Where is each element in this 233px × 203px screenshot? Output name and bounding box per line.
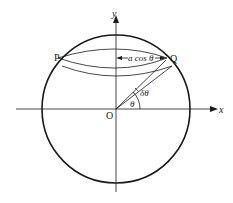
latitude-band [58,49,172,76]
arrow-left-icon [116,56,122,60]
point-q-label: Q [170,53,178,64]
theta-label: θ [130,99,135,109]
axes [16,15,218,192]
diagram-canvas: x y O P Q a cos θ θ δθ [0,0,233,203]
point-p-label: P [54,52,60,63]
x-axis-label: x [218,104,224,115]
delta-theta-label: δθ [140,88,149,98]
band-lower-arc [62,66,172,76]
sphere-diagram: x y O P Q a cos θ θ δθ [0,0,233,203]
radius-label: a cos θ [128,53,154,63]
origin-label: O [106,110,113,121]
x-axis-arrow-icon [210,106,218,112]
y-axis-label: y [111,8,117,19]
